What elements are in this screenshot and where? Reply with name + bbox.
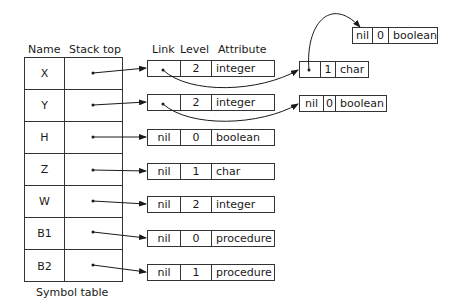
level-cell: 2 xyxy=(181,61,212,76)
link-cell: nil xyxy=(148,231,181,246)
link-cell: nil xyxy=(148,130,181,145)
level-cell: 1 xyxy=(181,164,212,179)
record-x-level2: 2 integer xyxy=(147,60,275,77)
link-cell: nil xyxy=(353,28,373,43)
link-cell: nil xyxy=(300,96,324,111)
link-cell: nil xyxy=(148,265,181,280)
symbol-row-x: X xyxy=(25,58,122,90)
link-cell xyxy=(148,61,181,76)
record-y-level2: 2 integer xyxy=(147,94,275,111)
record-w: nil 2 integer xyxy=(147,196,275,213)
attribute-cell: char xyxy=(336,62,368,77)
symbol-row-b2: B2 xyxy=(25,250,122,282)
record-b1: nil 0 procedure xyxy=(147,230,275,247)
level-cell: 1 xyxy=(321,62,336,77)
attribute-cell: procedure xyxy=(212,265,274,280)
attribute-cell: integer xyxy=(212,197,274,212)
header-stack-top: Stack top xyxy=(69,43,121,56)
level-cell: 0 xyxy=(373,28,389,43)
record-x-level1: 1 char xyxy=(299,61,369,78)
symbol-row-w: W xyxy=(25,186,122,218)
record-x-level0: nil 0 boolean xyxy=(352,27,438,44)
symbol-name: W xyxy=(25,186,65,217)
symbol-name: Y xyxy=(25,90,65,121)
level-cell: 1 xyxy=(181,265,212,280)
symbol-name: Z xyxy=(25,154,65,185)
record-b2: nil 1 procedure xyxy=(147,264,275,281)
header-link: Link xyxy=(152,43,175,56)
attribute-cell: boolean xyxy=(212,130,274,145)
attribute-cell: char xyxy=(212,164,274,179)
attribute-cell: boolean xyxy=(336,96,386,111)
attribute-cell: integer xyxy=(212,95,274,110)
record-z: nil 1 char xyxy=(147,163,275,180)
symbol-name: H xyxy=(25,122,65,153)
symbol-table-caption: Symbol table xyxy=(36,286,108,299)
symbol-name: B1 xyxy=(25,218,65,249)
symbol-name: B2 xyxy=(25,250,65,282)
symbol-name: X xyxy=(25,58,65,89)
level-cell: 2 xyxy=(181,197,212,212)
link-cell: nil xyxy=(148,164,181,179)
link-cell xyxy=(300,62,321,77)
level-cell: 0 xyxy=(324,96,336,111)
symbol-row-h: H xyxy=(25,122,122,154)
attribute-cell: procedure xyxy=(212,231,274,246)
level-cell: 0 xyxy=(181,231,212,246)
symbol-table: X Y H Z W B1 B2 xyxy=(24,57,123,282)
attribute-cell: integer xyxy=(212,61,274,76)
header-level: Level xyxy=(180,43,209,56)
level-cell: 2 xyxy=(181,95,212,110)
link-cell: nil xyxy=(148,197,181,212)
link-cell xyxy=(148,95,181,110)
header-name: Name xyxy=(28,43,60,56)
symbol-row-z: Z xyxy=(25,154,122,186)
record-h: nil 0 boolean xyxy=(147,129,275,146)
attribute-cell: boolean xyxy=(389,28,437,43)
record-y-level0: nil 0 boolean xyxy=(299,95,387,112)
symbol-row-y: Y xyxy=(25,90,122,122)
symbol-row-b1: B1 xyxy=(25,218,122,250)
header-attribute: Attribute xyxy=(218,43,267,56)
level-cell: 0 xyxy=(181,130,212,145)
